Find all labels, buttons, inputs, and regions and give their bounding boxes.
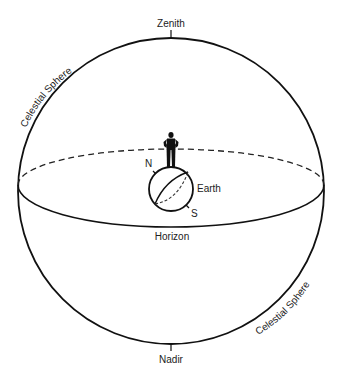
- earth-globe: [149, 167, 193, 211]
- observer-figure-icon: [164, 132, 179, 167]
- celestial-sphere-diagram: Zenith Nadir Horizon Celestial Sphere Ce…: [0, 0, 344, 379]
- horizon-label: Horizon: [155, 231, 189, 242]
- earth-label: Earth: [197, 183, 221, 194]
- south-label: S: [191, 208, 198, 219]
- north-label: N: [145, 158, 152, 169]
- celestial-sphere-label-lower: Celestial Sphere: [253, 279, 311, 337]
- nadir-label: Nadir: [159, 354, 184, 365]
- south-pole-tick: [186, 205, 189, 208]
- zenith-label: Zenith: [157, 18, 185, 29]
- celestial-sphere-label-upper: Celestial Sphere: [18, 64, 74, 128]
